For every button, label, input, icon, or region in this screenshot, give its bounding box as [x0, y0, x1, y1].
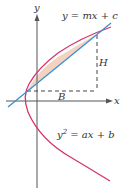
- line-equation-label: y = mx + c: [61, 10, 118, 21]
- y-axis-arrow-icon: [35, 14, 40, 21]
- x-axis-label: x: [114, 95, 120, 106]
- parabola-eq-rest: = ax + b: [67, 129, 114, 140]
- y-axis-label: y: [33, 2, 40, 13]
- dimension-h-label: H: [98, 57, 108, 68]
- parabola-equation-label: y2 = ax + b: [56, 128, 115, 140]
- parabola-line-diagram: y x y = mx + c H B y2 = ax + b: [0, 0, 126, 192]
- dimension-b-label: B: [57, 91, 65, 102]
- parabola-curve: [25, 27, 111, 181]
- x-axis-arrow-icon: [106, 99, 113, 104]
